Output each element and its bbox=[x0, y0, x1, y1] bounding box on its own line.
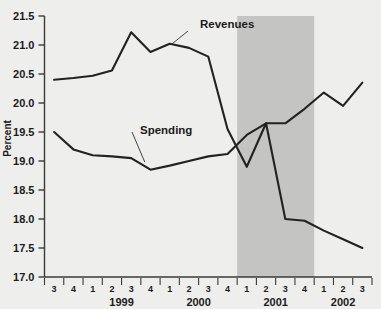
x-year-label: 2002 bbox=[331, 296, 355, 308]
shaded-region-recession bbox=[237, 16, 314, 277]
x-quarter-label: 2 bbox=[109, 284, 114, 294]
line-chart: 21.521.020.520.019.519.018.518.017.517.0… bbox=[0, 0, 381, 309]
x-quarter-label: 3 bbox=[360, 284, 365, 294]
y-tick-label: 20.0 bbox=[13, 97, 34, 109]
y-tick-label: 21.0 bbox=[13, 39, 34, 51]
recession-shading-layer bbox=[237, 16, 314, 277]
y-tick-label: 17.0 bbox=[13, 271, 34, 283]
x-year-label: 2000 bbox=[186, 296, 210, 308]
x-quarter-label: 3 bbox=[129, 284, 134, 294]
y-tick-label: 18.5 bbox=[13, 184, 34, 196]
x-quarter-label: 1 bbox=[321, 284, 326, 294]
x-quarter-label: 2 bbox=[186, 284, 191, 294]
y-axis-title: Percent bbox=[2, 119, 13, 156]
y-tick-label: 21.5 bbox=[13, 10, 34, 22]
y-tick-label: 18.0 bbox=[13, 213, 34, 225]
x-quarter-label: 1 bbox=[90, 284, 95, 294]
x-quarter-label: 2 bbox=[264, 284, 269, 294]
chart-container: 21.521.020.520.019.519.018.518.017.517.0… bbox=[0, 0, 381, 309]
x-quarter-label: 4 bbox=[302, 284, 307, 294]
chart-background bbox=[0, 0, 381, 309]
x-year-label: 2001 bbox=[263, 296, 287, 308]
series-label-spending: Spending bbox=[140, 124, 192, 136]
x-quarter-label: 1 bbox=[167, 284, 172, 294]
y-tick-label: 19.5 bbox=[13, 126, 34, 138]
x-quarter-label: 3 bbox=[283, 284, 288, 294]
x-quarter-label: 4 bbox=[225, 284, 230, 294]
y-tick-label: 17.5 bbox=[13, 242, 34, 254]
x-quarter-label: 3 bbox=[52, 284, 57, 294]
y-tick-label: 19.0 bbox=[13, 155, 34, 167]
x-quarter-label: 2 bbox=[341, 284, 346, 294]
x-quarter-label: 4 bbox=[71, 284, 76, 294]
x-quarter-label: 1 bbox=[244, 284, 249, 294]
x-quarter-label: 3 bbox=[206, 284, 211, 294]
x-quarter-label: 4 bbox=[148, 284, 153, 294]
series-label-revenues: Revenues bbox=[200, 18, 254, 30]
y-tick-label: 20.5 bbox=[13, 68, 34, 80]
x-year-label: 1999 bbox=[109, 296, 133, 308]
